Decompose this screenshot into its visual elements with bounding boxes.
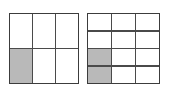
right-grid	[87, 13, 160, 84]
empty-cell-1-2	[33, 14, 55, 48]
empty-cell-1-1	[88, 14, 111, 30]
empty-cell-2-1	[88, 32, 111, 48]
empty-cell-4-2	[112, 67, 135, 83]
empty-cell-1-1	[10, 14, 32, 48]
empty-cell-2-3	[136, 32, 159, 48]
empty-cell-2-2	[33, 49, 55, 83]
shaded-cell-3-1	[88, 49, 111, 65]
fraction-grids-figure	[0, 0, 169, 89]
empty-cell-1-3	[56, 14, 78, 48]
empty-cell-1-2	[112, 14, 135, 30]
empty-cell-4-3	[136, 67, 159, 83]
shaded-cell-2-1	[10, 49, 32, 83]
empty-cell-2-3	[56, 49, 78, 83]
shaded-cell-4-1	[88, 67, 111, 83]
empty-cell-3-3	[136, 49, 159, 65]
left-grid	[9, 13, 79, 84]
empty-cell-1-3	[136, 14, 159, 30]
empty-cell-2-2	[112, 32, 135, 48]
empty-cell-3-2	[112, 49, 135, 65]
